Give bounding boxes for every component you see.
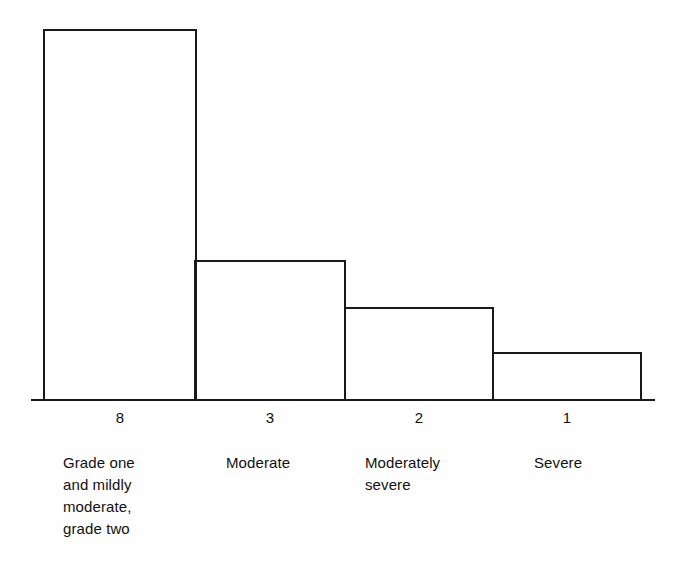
bar-3 [345, 308, 493, 400]
bar-1 [44, 30, 196, 400]
bar-value-label-4: 1 [493, 407, 641, 429]
bar-value-label-2: 3 [195, 407, 345, 429]
bar-value-label-1: 8 [44, 407, 196, 429]
bar-2 [195, 261, 345, 400]
bars-group [44, 30, 641, 400]
bar-4 [493, 353, 641, 400]
bar-category-label-3: Moderately severe [365, 452, 440, 496]
value-label-row: 8321 [0, 407, 684, 431]
bar-chart: 8321 Grade one and mildly moderate, grad… [0, 0, 684, 582]
category-label-row: Grade one and mildly moderate, grade two… [0, 452, 684, 562]
bar-category-label-2: Moderate [226, 452, 290, 474]
bar-category-label-1: Grade one and mildly moderate, grade two [63, 452, 135, 540]
bar-value-label-3: 2 [345, 407, 493, 429]
bar-category-label-4: Severe [534, 452, 582, 474]
